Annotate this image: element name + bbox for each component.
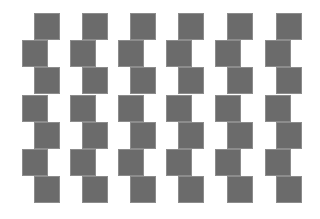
grid-square [277, 123, 301, 148]
grid-square [277, 177, 301, 202]
grid-square [71, 96, 95, 121]
grid-square [228, 123, 252, 148]
grid-square [266, 150, 290, 175]
grid-square [179, 177, 203, 202]
grid-square [228, 14, 252, 39]
grid-square [131, 14, 155, 39]
grid-square [131, 123, 155, 148]
grid-square [35, 123, 59, 148]
grid-square [167, 41, 191, 66]
grid-square [71, 41, 95, 66]
grid-square [119, 96, 143, 121]
grid-square [131, 177, 155, 202]
grid-square [216, 150, 240, 175]
grid-square [266, 41, 290, 66]
grid-square [35, 177, 59, 202]
grid-square [83, 177, 107, 202]
grid-square [179, 14, 203, 39]
grid-square [119, 150, 143, 175]
grid-square [119, 41, 143, 66]
grid-square [83, 123, 107, 148]
grid-square [83, 14, 107, 39]
grid-square [277, 68, 301, 93]
grid-square [71, 150, 95, 175]
grid-square [23, 41, 47, 66]
grid-square [35, 14, 59, 39]
grid-square [266, 96, 290, 121]
grid-square [179, 68, 203, 93]
grid-square [131, 68, 155, 93]
grid-square [277, 14, 301, 39]
grid-square [83, 68, 107, 93]
grid-square [23, 96, 47, 121]
grid-square [35, 68, 59, 93]
grid-square [228, 68, 252, 93]
grid-square [167, 96, 191, 121]
square-grid [0, 0, 320, 219]
grid-square [216, 41, 240, 66]
grid-square [228, 177, 252, 202]
grid-square [216, 96, 240, 121]
grid-square [179, 123, 203, 148]
grid-square [167, 150, 191, 175]
grid-square [23, 150, 47, 175]
